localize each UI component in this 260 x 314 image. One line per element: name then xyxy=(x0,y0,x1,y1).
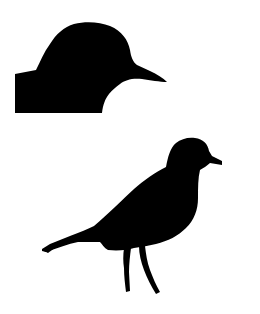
silhouette-canvas xyxy=(0,0,260,314)
background xyxy=(0,0,260,314)
silhouette-illustration xyxy=(0,0,260,314)
